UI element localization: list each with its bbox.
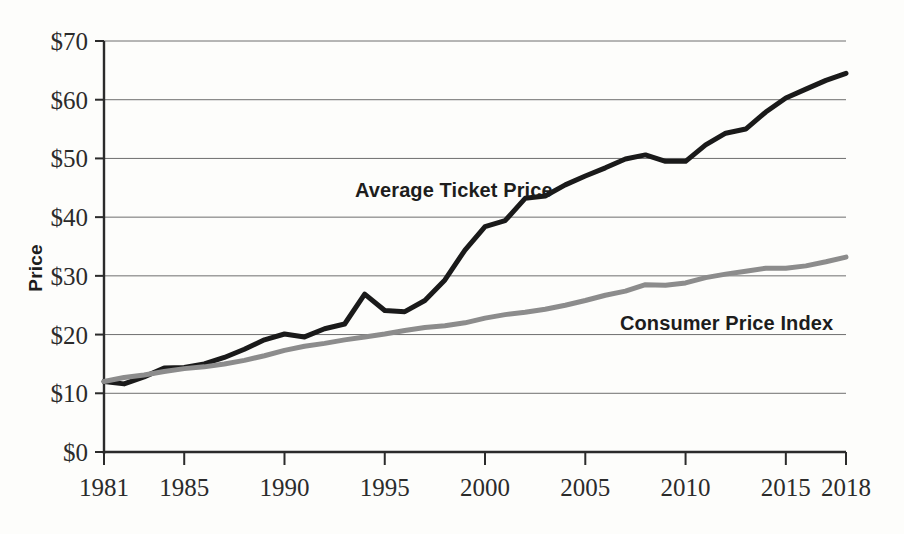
- series-line-average-ticket-price: [104, 73, 846, 384]
- series-label-consumer-price-index: Consumer Price Index: [620, 312, 833, 334]
- y-tick-label: $30: [51, 263, 89, 290]
- y-tick-label: $60: [51, 87, 89, 114]
- line-chart: Price Average Ticket Price Consumer Pric…: [0, 0, 904, 534]
- x-tick-label: 1990: [259, 474, 309, 501]
- x-tick-label: 2010: [661, 474, 711, 501]
- y-axis-title: Price: [25, 244, 46, 291]
- y-tick-label: $70: [51, 28, 89, 55]
- series-paths-group: [104, 73, 846, 384]
- x-axis-ticks-group: [104, 452, 846, 465]
- x-tick-label: 1981: [79, 474, 129, 501]
- x-tick-label: 1995: [360, 474, 410, 501]
- y-tick-label: $0: [63, 439, 88, 466]
- x-axis-tick-labels-group: 198119851990199520002005201020152018: [79, 474, 871, 501]
- x-tick-label: 1985: [159, 474, 209, 501]
- x-tick-label: 2015: [761, 474, 811, 501]
- y-tick-label: $20: [51, 322, 89, 349]
- y-tick-label: $40: [51, 204, 89, 231]
- series-label-average-ticket-price: Average Ticket Price: [355, 179, 553, 201]
- y-axis-tick-labels-group: $70$60$50$40$30$20$10$0: [51, 28, 89, 466]
- x-tick-label: 2018: [821, 474, 871, 501]
- chart-container: Price Average Ticket Price Consumer Pric…: [0, 0, 904, 534]
- y-tick-label: $10: [51, 380, 89, 407]
- x-tick-label: 2000: [460, 474, 510, 501]
- x-tick-label: 2005: [560, 474, 610, 501]
- gridlines-group: [104, 41, 846, 452]
- y-axis-ticks-group: [95, 41, 104, 452]
- y-tick-label: $50: [51, 145, 89, 172]
